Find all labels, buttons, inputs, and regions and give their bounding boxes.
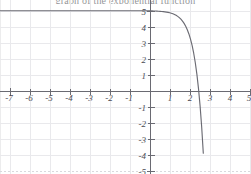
y-tick-label: -5 — [139, 167, 147, 174]
x-tick-label: 5 — [247, 93, 251, 103]
x-tick-label: 2 — [188, 93, 193, 103]
x-tick-label: -3 — [85, 93, 93, 103]
x-tick-label: -6 — [25, 93, 33, 103]
x-tick-label: -7 — [5, 93, 13, 103]
y-tick-label: 1 — [142, 71, 147, 81]
coordinate-plane: -7 -6 -5 -4 -3 -2 -1 1 2 3 4 5 5 4 3 2 1… — [0, 0, 251, 174]
x-tick-label: -1 — [125, 93, 133, 103]
y-tick-label: -1 — [139, 103, 147, 113]
x-axis-tick-labels: -7 -6 -5 -4 -3 -2 -1 1 2 3 4 5 — [5, 93, 251, 103]
y-tick-label: -4 — [139, 151, 147, 161]
y-tick-label: 5 — [142, 7, 147, 17]
x-tick-label: -2 — [105, 93, 113, 103]
vertical-gridlines — [11, 0, 251, 174]
exponential-graph-screenshot: graph of the exponential function — [0, 0, 251, 174]
x-tick-label: -4 — [65, 93, 73, 103]
x-tick-label: 4 — [228, 93, 233, 103]
x-tick-label: -5 — [45, 93, 53, 103]
axes — [0, 0, 251, 174]
y-tick-label: -2 — [139, 119, 147, 129]
x-tick-label: 1 — [168, 93, 173, 103]
x-tick-label: 3 — [207, 93, 213, 103]
y-axis-tick-labels: 5 4 3 2 1 -1 -2 -3 -4 -5 — [139, 7, 147, 174]
y-tick-label: 4 — [142, 23, 147, 33]
y-tick-label: 2 — [142, 55, 147, 65]
y-tick-label: 3 — [141, 39, 147, 49]
y-tick-label: -3 — [139, 135, 147, 145]
